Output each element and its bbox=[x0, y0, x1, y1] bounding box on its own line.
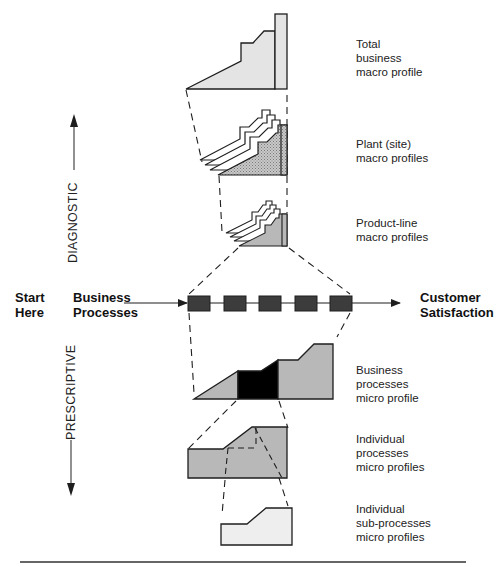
individual-sub-processes-micro-profiles bbox=[221, 508, 292, 545]
plant-site-macro-profiles bbox=[200, 110, 287, 175]
connector-product-to-chain bbox=[189, 248, 350, 294]
business-processes-label: Business processes micro profile bbox=[356, 363, 419, 405]
process-box bbox=[295, 296, 317, 311]
process-box bbox=[330, 296, 352, 311]
business-processes-input-label: Business Processes bbox=[73, 290, 138, 320]
total-business-label: Total business macro profile bbox=[356, 37, 422, 79]
start-here-label: Start Here bbox=[15, 290, 45, 320]
process-flow bbox=[124, 296, 400, 311]
product-line-macro-profiles bbox=[226, 201, 287, 246]
customer-satisfaction-label: Customer Satisfaction bbox=[420, 290, 494, 320]
process-box bbox=[259, 296, 281, 311]
diagnostic-arrow bbox=[70, 114, 78, 170]
diagnostic-label: DIAGNOSTIC bbox=[66, 182, 80, 263]
process-box bbox=[224, 296, 246, 311]
product-line-label: Product-line macro profiles bbox=[356, 216, 428, 244]
total-business-macro-profile bbox=[186, 14, 287, 89]
individual-processes-micro-profiles bbox=[188, 427, 287, 478]
profile-hierarchy-diagram bbox=[0, 0, 499, 567]
prescriptive-arrow bbox=[67, 440, 75, 496]
business-processes-micro-profile bbox=[194, 344, 333, 399]
individual-sub-processes-label: Individual sub-processes micro profiles bbox=[356, 502, 431, 544]
plant-site-label: Plant (site) macro profiles bbox=[356, 137, 428, 165]
process-box bbox=[188, 296, 210, 311]
prescriptive-label: PRESCRIPTIVE bbox=[64, 345, 78, 440]
individual-processes-label: Individual processes micro profiles bbox=[356, 432, 424, 474]
